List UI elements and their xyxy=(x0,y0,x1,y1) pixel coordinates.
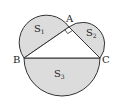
label-a: A xyxy=(65,13,74,24)
label-b: B xyxy=(13,54,20,65)
label-c: C xyxy=(102,54,110,65)
geometry-diagram: A B C S1 S2 S3 xyxy=(0,0,117,100)
